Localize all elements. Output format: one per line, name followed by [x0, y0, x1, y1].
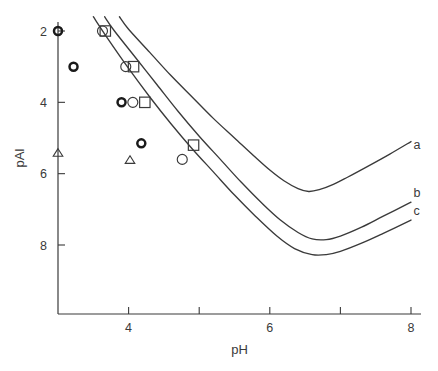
chart-figure: 2468468pHpAlabc — [0, 0, 438, 371]
plot-area: 2468468pHpAlabc — [0, 0, 438, 371]
x-axis-title: pH — [231, 342, 248, 357]
curve-b — [105, 17, 411, 240]
marker-bold-circle — [70, 63, 78, 71]
y-tick-label-4: 4 — [40, 96, 47, 110]
marker-bold-circle — [118, 98, 126, 106]
axes — [58, 22, 421, 314]
y-tick-label-2: 2 — [40, 25, 47, 39]
curves — [93, 17, 411, 255]
marker-open-circle — [121, 62, 131, 72]
x-tick-label-4: 4 — [125, 321, 132, 335]
curve-label-a: a — [413, 138, 420, 152]
y-tick-label-6: 6 — [40, 167, 47, 181]
y-tick-label-8: 8 — [40, 239, 47, 253]
curve-label-b: b — [413, 186, 420, 200]
marker-open-triangle — [125, 156, 135, 164]
marker-open-circle — [128, 97, 138, 107]
curve-a — [119, 17, 411, 192]
marker-open-circle — [177, 154, 187, 164]
curve-label-c: c — [413, 204, 419, 218]
x-tick-label-8: 8 — [408, 321, 415, 335]
y-axis-title: pAl — [12, 148, 27, 167]
axis-and-series-labels: 2468468pHpAlabc — [12, 25, 420, 358]
marker-open-square — [140, 97, 150, 107]
x-tick-label-6: 6 — [266, 321, 273, 335]
curve-c — [93, 17, 411, 255]
marker-bold-circle — [137, 139, 145, 147]
